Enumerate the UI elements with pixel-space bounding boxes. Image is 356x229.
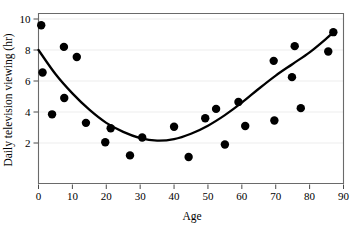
y-tick-label-2: 2 bbox=[25, 137, 31, 149]
x-tick-label-20: 20 bbox=[101, 190, 113, 202]
x-tick-label-40: 40 bbox=[169, 190, 181, 202]
data-point bbox=[138, 133, 146, 141]
data-point bbox=[73, 53, 81, 61]
data-point bbox=[106, 124, 114, 132]
data-point bbox=[170, 123, 178, 131]
data-point bbox=[288, 73, 296, 81]
data-point bbox=[48, 110, 56, 118]
data-point bbox=[126, 151, 134, 159]
x-tick-label-50: 50 bbox=[202, 190, 214, 202]
y-tick-label-10: 10 bbox=[20, 13, 32, 25]
data-point bbox=[37, 21, 45, 29]
data-point bbox=[234, 98, 242, 106]
x-tick-label-10: 10 bbox=[67, 190, 79, 202]
data-point bbox=[60, 43, 68, 51]
chart-canvas: 0102030405060708090 246810 Age Daily tel… bbox=[0, 0, 356, 229]
data-point bbox=[101, 138, 109, 146]
data-point bbox=[212, 105, 220, 113]
data-point bbox=[297, 104, 305, 112]
y-axis-title: Daily television viewing (hr) bbox=[2, 33, 15, 166]
data-point bbox=[201, 114, 209, 122]
y-tick-label-6: 6 bbox=[25, 75, 31, 87]
data-point bbox=[291, 42, 299, 50]
data-point bbox=[329, 28, 337, 36]
x-tick-label-80: 80 bbox=[304, 190, 316, 202]
x-tick-label-70: 70 bbox=[270, 190, 282, 202]
data-point bbox=[324, 47, 332, 55]
data-point bbox=[241, 122, 249, 130]
data-point bbox=[269, 57, 277, 65]
y-tick-label-8: 8 bbox=[25, 44, 31, 56]
data-point bbox=[38, 68, 46, 76]
x-tick-label-30: 30 bbox=[135, 190, 147, 202]
x-tick-label-0: 0 bbox=[36, 190, 42, 202]
data-point bbox=[60, 94, 68, 102]
x-tick-label-60: 60 bbox=[236, 190, 248, 202]
data-point bbox=[82, 119, 90, 127]
data-point bbox=[270, 116, 278, 124]
y-tick-label-4: 4 bbox=[25, 106, 31, 118]
x-axis-title: Age bbox=[182, 210, 201, 223]
data-point bbox=[184, 153, 192, 161]
x-tick-label-90: 90 bbox=[338, 190, 350, 202]
scatter-plot-figure: 0102030405060708090 246810 Age Daily tel… bbox=[0, 0, 356, 229]
data-point bbox=[221, 140, 229, 148]
